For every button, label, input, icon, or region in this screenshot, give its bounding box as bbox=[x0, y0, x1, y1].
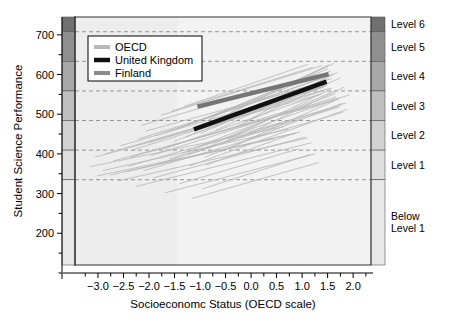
y-tick-label-400: 400 bbox=[36, 148, 54, 160]
level-label-line: Level 2 bbox=[391, 129, 425, 141]
level-label-line: Level 6 bbox=[391, 18, 425, 30]
y-tick-label-300: 300 bbox=[36, 188, 54, 200]
x-tick-label-3: −1.5 bbox=[164, 280, 186, 292]
level-label-line: Level 4 bbox=[391, 70, 425, 82]
level-label-6: Level 1 bbox=[391, 159, 425, 171]
level-label-1: Level 6 bbox=[391, 18, 425, 30]
legend-label-finland: Finland bbox=[115, 67, 151, 79]
x-tick-label-4: −1.0 bbox=[189, 280, 211, 292]
level-band-right-4 bbox=[371, 91, 385, 121]
x-tick-label-10: 2.0 bbox=[345, 280, 360, 292]
y-tick-label-200: 200 bbox=[36, 227, 54, 239]
level-band-right-2 bbox=[371, 32, 385, 62]
level-band-left-1 bbox=[62, 17, 75, 32]
level-band-right-3 bbox=[371, 61, 385, 91]
level-label-3: Level 4 bbox=[391, 70, 425, 82]
legend-label-united-kingdom: United Kingdom bbox=[115, 54, 193, 66]
chart-figure: 200300400500600700Student Science Perfor… bbox=[0, 0, 452, 320]
level-label-line: Level 5 bbox=[391, 41, 425, 53]
y-tick-label-700: 700 bbox=[36, 29, 54, 41]
level-band-left-3 bbox=[62, 61, 75, 91]
level-band-left-2 bbox=[62, 32, 75, 62]
x-tick-label-7: 0.5 bbox=[269, 280, 284, 292]
x-tick-label-2: −2.0 bbox=[138, 280, 160, 292]
level-band-left-4 bbox=[62, 91, 75, 121]
level-label-4: Level 3 bbox=[391, 100, 425, 112]
level-band-left-6 bbox=[62, 150, 75, 180]
level-label-line: Level 1 bbox=[391, 159, 425, 171]
level-band-right-1 bbox=[371, 17, 385, 32]
level-label-line: Level 3 bbox=[391, 100, 425, 112]
y-tick-label-600: 600 bbox=[36, 69, 54, 81]
level-label-2: Level 5 bbox=[391, 41, 425, 53]
level-band-left-7 bbox=[62, 180, 75, 265]
level-label-5: Level 2 bbox=[391, 129, 425, 141]
x-tick-label-5: −0.5 bbox=[215, 280, 237, 292]
x-tick-label-6: 0.0 bbox=[243, 280, 258, 292]
level-label-line: Below bbox=[391, 210, 420, 222]
y-axis-title: Student Science Performance bbox=[12, 65, 24, 218]
x-tick-label-8: 1.0 bbox=[294, 280, 309, 292]
x-tick-label-1: −2.5 bbox=[113, 280, 135, 292]
x-axis-title: Socioeconomc Status (OECD scale) bbox=[130, 298, 316, 310]
level-band-left-5 bbox=[62, 121, 75, 151]
level-band-right-5 bbox=[371, 121, 385, 151]
level-band-right-7 bbox=[371, 180, 385, 265]
legend-label-oecd: OECD bbox=[115, 41, 147, 53]
chart-legend: OECDUnited KingdomFinland bbox=[88, 36, 202, 81]
level-label-line: Level 1 bbox=[391, 222, 425, 234]
socioeconomic-gradient-chart: 200300400500600700Student Science Perfor… bbox=[0, 0, 452, 320]
x-tick-label-0: −3.0 bbox=[87, 280, 109, 292]
x-tick-label-9: 1.5 bbox=[320, 280, 335, 292]
level-band-right-6 bbox=[371, 150, 385, 180]
y-tick-label-500: 500 bbox=[36, 108, 54, 120]
